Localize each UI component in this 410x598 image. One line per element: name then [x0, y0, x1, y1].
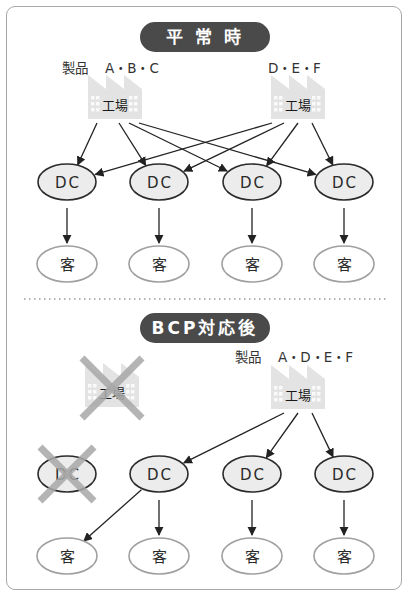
factory-window — [274, 386, 278, 390]
customer-label: 客 — [337, 256, 352, 274]
customer-label: 客 — [152, 548, 167, 566]
factory-window — [312, 96, 316, 100]
factory-window — [93, 390, 97, 394]
customer-node: 客 — [314, 246, 374, 282]
dc-label: DC — [147, 174, 173, 192]
factory-window — [279, 398, 283, 402]
dc-node: DC — [223, 164, 281, 200]
factory-window — [134, 102, 138, 106]
product-prefix-label: 製品 — [62, 60, 88, 76]
factory-window — [317, 108, 321, 112]
customer-node: 客 — [129, 538, 189, 574]
factory-window — [91, 96, 95, 100]
factory-window — [96, 96, 100, 100]
dc-node: DC — [38, 164, 96, 200]
factory-window — [274, 392, 278, 396]
product-list-label: D・E・F — [268, 60, 321, 76]
customer-node: 客 — [222, 538, 282, 574]
factory-window — [96, 108, 100, 112]
customer-node: 客 — [129, 246, 189, 282]
factory-window — [93, 384, 97, 388]
factory-window — [131, 396, 135, 400]
factory-window — [88, 396, 92, 400]
edge-f2-to-dc2 — [184, 413, 284, 463]
factory-window — [129, 96, 133, 100]
customer-node: 客 — [37, 538, 97, 574]
factory-window — [274, 108, 278, 112]
bcp-title-pill: BCP対応後 — [140, 313, 270, 343]
factory-window — [312, 386, 316, 390]
factory-window — [88, 384, 92, 388]
edge-f2-to-dc4 — [312, 123, 333, 165]
dc-label: DC — [332, 466, 358, 484]
factory-window — [312, 398, 316, 402]
section-title: BCP対応後 — [152, 318, 259, 338]
factory-window — [129, 108, 133, 112]
factory-window — [134, 108, 138, 112]
product-list-label: A・D・E・F — [278, 349, 353, 365]
dc-node: DC — [315, 456, 373, 492]
factory-window — [279, 392, 283, 396]
customer-label: 客 — [245, 548, 260, 566]
factory-label: 工場 — [102, 98, 128, 113]
dc-node: DC — [130, 164, 188, 200]
factory-window — [279, 96, 283, 100]
factory-window — [134, 96, 138, 100]
edge-f1-to-dc1 — [78, 123, 97, 165]
factory-window — [96, 102, 100, 106]
factory-window — [279, 102, 283, 106]
dc-label: DC — [240, 466, 266, 484]
edge-f2-to-dc2 — [184, 123, 284, 171]
customer-node: 客 — [222, 246, 282, 282]
supply-chain-diagram: 平 常 時工場製品A・B・C工場D・E・FDCDCDCDC客客客客BCP対応後工… — [0, 0, 410, 598]
factory-window — [91, 108, 95, 112]
dc-label: DC — [332, 174, 358, 192]
factory-window — [317, 102, 321, 106]
factory-window — [88, 390, 92, 394]
factory-window — [317, 398, 321, 402]
dc-label: DC — [240, 174, 266, 192]
customer-label: 客 — [337, 548, 352, 566]
factory-window — [279, 108, 283, 112]
dc-node: DC — [130, 456, 188, 492]
edge-f2-to-dc4 — [312, 413, 333, 457]
dc-label: DC — [147, 466, 173, 484]
factory-window — [126, 390, 130, 394]
product-prefix-label: 製品 — [235, 349, 261, 365]
factory-window — [317, 96, 321, 100]
factory-window — [312, 108, 316, 112]
dc-node: DC — [223, 456, 281, 492]
factory-window — [131, 390, 135, 394]
factory-window — [312, 102, 316, 106]
normal-title-pill: 平 常 時 — [140, 22, 270, 52]
customer-label: 客 — [60, 548, 75, 566]
customer-label: 客 — [152, 256, 167, 274]
factory-window — [317, 386, 321, 390]
customer-node: 客 — [314, 538, 374, 574]
factory-label: 工場 — [285, 388, 311, 403]
factory-label: 工場 — [285, 98, 311, 113]
factory-window — [312, 392, 316, 396]
factory-window — [274, 398, 278, 402]
dc-label: DC — [55, 174, 81, 192]
factory-window — [274, 96, 278, 100]
product-list-label: A・B・C — [105, 60, 159, 76]
factory-window — [131, 384, 135, 388]
customer-label: 客 — [60, 256, 75, 274]
factory-window — [279, 386, 283, 390]
factory-window — [274, 102, 278, 106]
factory-window — [93, 396, 97, 400]
factory-window — [91, 102, 95, 106]
dc-node: DC — [315, 164, 373, 200]
factory-window — [317, 392, 321, 396]
section-title: 平 常 時 — [166, 27, 244, 47]
customer-label: 客 — [245, 256, 260, 274]
factory-window — [129, 102, 133, 106]
factory-window — [126, 384, 130, 388]
edge-f1-to-dc3 — [129, 123, 227, 171]
customer-node: 客 — [37, 246, 97, 282]
